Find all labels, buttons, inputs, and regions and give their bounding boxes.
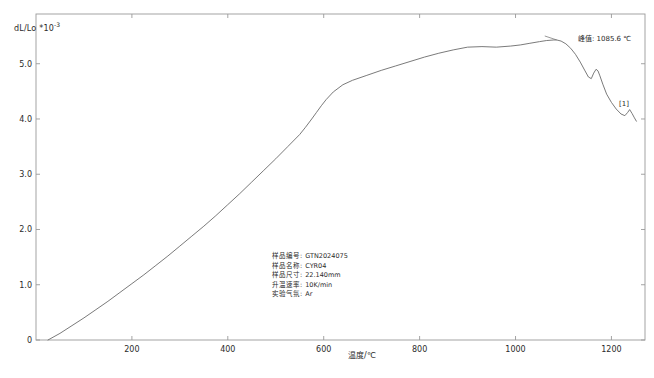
x-axis-label: 温度/℃ [348,349,376,360]
y-tick-label-1.0: 1.0 [12,280,32,289]
y-tick-label-0: 0 [12,336,32,345]
info-key-atmosphere: 实验气氛: [272,290,302,300]
y-tick-label-3.0: 3.0 [12,170,32,179]
sample-info-panel: 样品编号:GTN2024075 样品名称:CYR04 样品尺寸:22.140mm… [272,252,348,300]
y-axis-label: dL/Lo *10-3 [14,21,60,33]
info-row-atmosphere: 实验气氛:Ar [272,290,348,300]
y-tick-label-4.0: 4.0 [12,114,32,123]
x-tick-label-1000: 1000 [505,345,525,354]
info-row-sample-name: 样品名称:CYR04 [272,262,348,272]
info-value-sample-id: GTN2024075 [305,252,348,262]
info-value-sample-name: CYR04 [305,262,326,272]
x-tick-label-600: 600 [316,345,331,354]
series-tag: [1] [619,100,629,108]
y-axis-label-text: dL/Lo *10 [14,24,54,33]
x-tick-label-400: 400 [220,345,235,354]
x-tick-label-200: 200 [124,345,139,354]
plot-area [0,0,654,378]
info-value-sample-size: 22.140mm [305,271,340,281]
y-axis-label-exponent: -3 [54,21,60,28]
peak-annotation: 峰值: 1085.6 ℃ [578,33,631,43]
x-tick-label-800: 800 [412,345,427,354]
info-value-heating-rate: 10K/min [305,281,332,291]
info-value-atmosphere: Ar [305,290,312,300]
x-tick-label-1200: 1200 [601,345,621,354]
y-tick-label-5.0: 5.0 [12,59,32,68]
info-row-sample-id: 样品编号:GTN2024075 [272,252,348,262]
info-row-sample-size: 样品尺寸:22.140mm [272,271,348,281]
info-key-heating-rate: 升温速率: [272,281,302,291]
info-row-heating-rate: 升温速率:10K/min [272,281,348,291]
info-key-sample-id: 样品编号: [272,252,302,262]
dilatometry-chart: dL/Lo *10-3 温度/℃ 峰值: 1085.6 ℃ [1] 样品编号:G… [0,0,654,378]
info-key-sample-name: 样品名称: [272,262,302,272]
info-key-sample-size: 样品尺寸: [272,271,302,281]
y-tick-label-2.0: 2.0 [12,225,32,234]
